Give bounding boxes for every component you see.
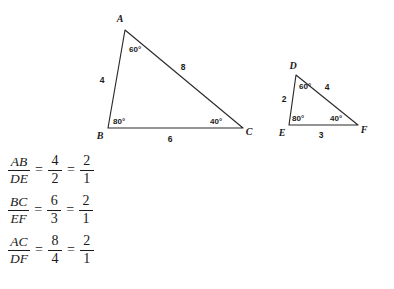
side-label-ac-8: 8 bbox=[181, 62, 186, 72]
fraction-ac-over-df: AC DF bbox=[8, 235, 30, 266]
angle-label-f-40: 40° bbox=[330, 114, 342, 123]
fraction-numerator: 6 bbox=[49, 194, 60, 208]
fraction-numerator: AC bbox=[8, 235, 29, 249]
side-label-bc-6: 6 bbox=[168, 134, 173, 144]
fraction-numerator: AB bbox=[9, 155, 30, 169]
vertex-label-e: E bbox=[278, 127, 286, 138]
proportion-equations: AB DE = 4 2 = 2 1 BC EF = bbox=[8, 150, 128, 270]
fraction-numerator: BC bbox=[8, 195, 29, 209]
equation-row-bc-ef: BC EF = 6 3 = 2 1 bbox=[8, 190, 128, 230]
equals-sign: = bbox=[35, 162, 43, 178]
fraction-denominator: 2 bbox=[49, 172, 60, 186]
fraction-denominator: 4 bbox=[49, 252, 60, 266]
fraction-denominator: DF bbox=[8, 252, 30, 266]
equation-row-ab-de: AB DE = 4 2 = 2 1 bbox=[8, 150, 128, 190]
angle-label-a-60: 60° bbox=[129, 45, 141, 54]
fraction-6-over-3: 6 3 bbox=[47, 194, 61, 226]
fraction-2-over-1: 2 1 bbox=[79, 194, 93, 226]
triangle-def: D E F 60° 80° 40° 2 4 3 bbox=[278, 60, 368, 140]
triangle-abc: A B C 60° 80° 40° 4 8 6 bbox=[96, 13, 253, 144]
side-label-df-4: 4 bbox=[325, 82, 330, 92]
vertex-label-c: C bbox=[246, 126, 253, 137]
equation-row-ac-df: AC DF = 8 4 = 2 1 bbox=[8, 230, 128, 270]
angle-label-c-40: 40° bbox=[210, 117, 222, 126]
fraction-denominator: 1 bbox=[81, 212, 92, 226]
fraction-2-over-1: 2 1 bbox=[80, 234, 94, 266]
angle-label-b-80: 80° bbox=[113, 117, 125, 126]
equals-sign: = bbox=[35, 242, 43, 258]
angle-label-e-80: 80° bbox=[292, 114, 304, 123]
side-label-de-2: 2 bbox=[282, 94, 287, 104]
fraction-4-over-2: 4 2 bbox=[48, 154, 62, 186]
fraction-ab-over-de: AB DE bbox=[8, 155, 30, 186]
equals-sign: = bbox=[67, 162, 75, 178]
fraction-denominator: 3 bbox=[49, 212, 60, 226]
fraction-numerator: 2 bbox=[81, 234, 92, 248]
equals-sign: = bbox=[67, 242, 75, 258]
fraction-denominator: 1 bbox=[81, 252, 92, 266]
fraction-bc-over-ef: BC EF bbox=[8, 195, 29, 226]
equals-sign: = bbox=[34, 202, 42, 218]
vertex-label-f: F bbox=[360, 124, 368, 135]
fraction-numerator: 4 bbox=[49, 154, 60, 168]
side-label-ef-3: 3 bbox=[319, 130, 324, 140]
fraction-numerator: 2 bbox=[81, 154, 92, 168]
fraction-2-over-1: 2 1 bbox=[80, 154, 94, 186]
vertex-label-a: A bbox=[116, 13, 124, 24]
side-label-ab-4: 4 bbox=[100, 75, 105, 85]
fraction-numerator: 2 bbox=[81, 194, 92, 208]
vertex-label-b: B bbox=[96, 130, 104, 141]
angle-label-d-60: 60° bbox=[299, 82, 311, 91]
fraction-denominator: EF bbox=[8, 212, 29, 226]
diagram-page: A B C 60° 80° 40° 4 8 6 D E F 60° 80° 40… bbox=[0, 0, 394, 289]
equals-sign: = bbox=[66, 202, 74, 218]
fraction-denominator: 1 bbox=[81, 172, 92, 186]
fraction-denominator: DE bbox=[8, 172, 30, 186]
vertex-label-d: D bbox=[288, 60, 296, 71]
fraction-8-over-4: 8 4 bbox=[48, 234, 62, 266]
fraction-numerator: 8 bbox=[49, 234, 60, 248]
